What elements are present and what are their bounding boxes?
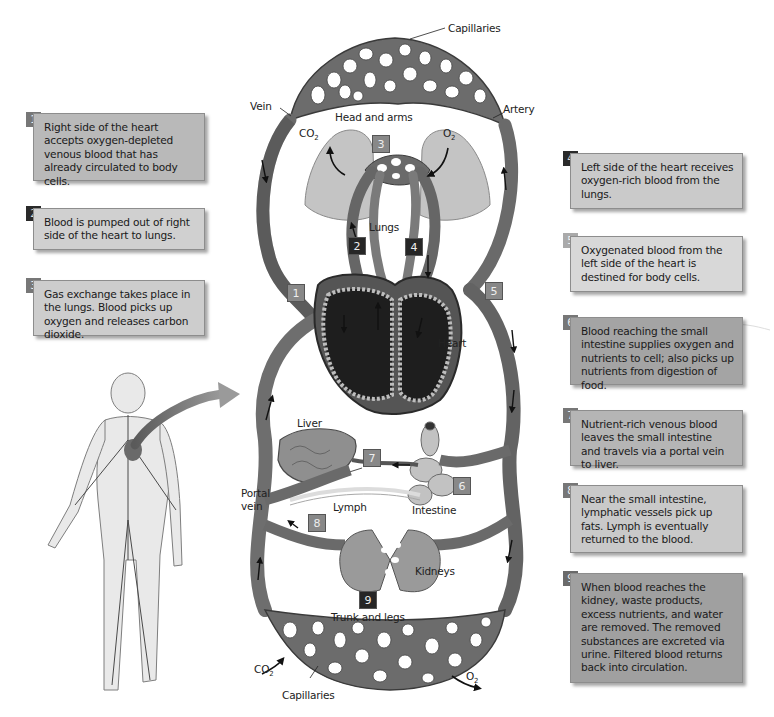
label-capillaries-bottom: Capillaries [282, 689, 335, 701]
label-kidneys: Kidneys [415, 565, 455, 577]
lungs-illustration [305, 130, 490, 220]
step-9-text: When blood reaches the kidney, waste pro… [570, 573, 743, 683]
label-intestine: Intestine [412, 504, 456, 516]
label-o2-top: O2 [443, 127, 455, 142]
marker-3: 3 [372, 135, 390, 153]
label-portal-vein: Portalvein [241, 487, 270, 513]
label-lymph: Lymph [333, 501, 367, 513]
marker-7: 7 [363, 449, 381, 467]
marker-8: 8 [308, 514, 326, 532]
label-head-and-arms: Head and arms [335, 111, 413, 123]
label-capillaries-top: Capillaries [448, 22, 501, 34]
step-7-text: Nutrient-rich venous blood leaves the sm… [570, 410, 743, 466]
step-6-text: Blood reaching the small intestine suppl… [570, 317, 743, 385]
zoom-arrow-head [218, 382, 240, 408]
step-1-text: Right side of the heart accepts oxygen-d… [33, 113, 205, 181]
marker-2: 2 [348, 237, 366, 255]
label-co2-top: CO2 [299, 127, 318, 142]
label-artery: Artery [503, 103, 534, 115]
label-liver: Liver [297, 417, 322, 429]
step-5-text: Oxygenated blood from the left side of t… [570, 236, 743, 292]
label-lungs: Lungs [369, 221, 399, 233]
label-o2-bottom: O2 [466, 670, 478, 685]
marker-5: 5 [485, 282, 503, 300]
kidneys-illustration [340, 530, 440, 592]
label-trunk-and-legs: Trunk and legs [331, 611, 405, 623]
step-2-text: Blood is pumped out of right side of the… [33, 208, 205, 250]
marker-6: 6 [453, 477, 471, 495]
marker-9: 9 [359, 591, 377, 609]
step-4-text: Left side of the heart receives oxygen-r… [570, 153, 743, 209]
step-8-text: Near the small intestine, lymphatic vess… [570, 485, 743, 553]
label-vein: Vein [250, 100, 272, 112]
marker-4: 4 [405, 238, 423, 256]
label-heart: Heart [438, 337, 466, 349]
label-co2-bottom: CO2 [254, 663, 273, 678]
marker-1: 1 [287, 284, 305, 302]
step-3-text: Gas exchange takes place in the lungs. B… [33, 280, 205, 336]
